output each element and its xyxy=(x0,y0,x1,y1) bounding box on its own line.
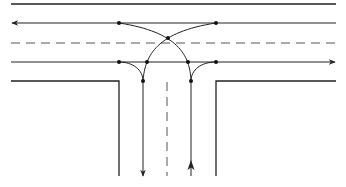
conflict-point xyxy=(214,60,218,64)
conflict-points xyxy=(117,21,218,83)
conflict-point xyxy=(166,36,170,40)
conflict-point xyxy=(117,21,121,25)
right-corner-curb xyxy=(216,81,336,176)
conflict-point xyxy=(141,79,145,83)
right-turn-path-eastbound-to-side xyxy=(119,62,143,81)
left-corner-curb xyxy=(11,81,119,176)
right-turn-path-side-to-eastbound xyxy=(191,62,216,81)
t-intersection-diagram xyxy=(0,0,346,187)
conflict-point xyxy=(145,60,149,64)
conflict-point xyxy=(189,79,193,83)
conflict-point xyxy=(117,60,121,64)
conflict-point xyxy=(214,21,218,25)
conflict-point xyxy=(186,60,190,64)
